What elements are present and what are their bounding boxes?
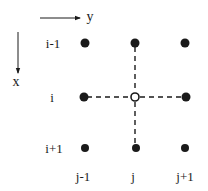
node-i-jp1 [182, 93, 191, 102]
row-label-ip1: i+1 [45, 142, 62, 155]
x-axis-label: x [13, 75, 20, 89]
node-i-jm1 [80, 93, 89, 102]
node-im1-j [131, 39, 140, 48]
stencil-graphic [0, 0, 208, 191]
row-label-im1: i-1 [46, 37, 60, 50]
node-ip1-jp1 [181, 144, 189, 152]
node-im1-jm1 [81, 39, 90, 48]
node-im1-jp1 [181, 39, 190, 48]
stencil-diagram: y x i-1 i i+1 j-1 j j+1 [0, 0, 208, 191]
node-ip1-j [132, 144, 140, 152]
col-label-jp1: j+1 [176, 170, 193, 183]
y-axis-label: y [87, 10, 94, 24]
col-label-jm1: j-1 [76, 170, 90, 183]
node-i-j-center [131, 93, 139, 101]
col-label-j: j [131, 170, 135, 183]
row-label-i: i [50, 91, 54, 104]
node-ip1-jm1 [81, 144, 89, 152]
